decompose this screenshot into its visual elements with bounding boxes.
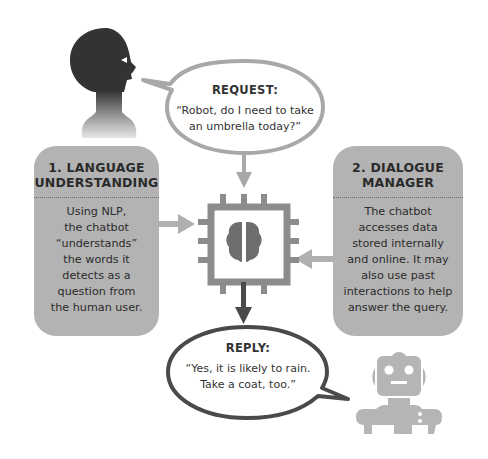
request-text: “Robot, do I need to take an umbrella to… — [170, 103, 320, 135]
language-body-line: Using NLP, — [40, 204, 153, 220]
language-body-line: “understands” — [40, 236, 153, 252]
chip-brain-icon — [198, 194, 299, 294]
language-title-line-2: UNDERSTANDING — [34, 175, 159, 190]
request-bubble: REQUEST: “Robot, do I need to take an um… — [170, 83, 320, 135]
reply-line-2: Take a coat, too.” — [172, 377, 324, 393]
reply-text: “Yes, it is likely to rain. Take a coat,… — [172, 361, 324, 393]
language-box-body: Using NLP, the chatbot “understands” the… — [34, 198, 159, 316]
language-body-line: detects as a — [40, 268, 153, 284]
dialogue-body-line: interactions to help — [335, 284, 461, 300]
dialogue-manager-box: 2. DIALOGUE MANAGER The chatbot accesses… — [333, 146, 463, 336]
arrow-down-to-reply — [235, 282, 252, 324]
language-body-line: question from — [40, 284, 153, 300]
dialogue-body-line: stored internally — [335, 236, 461, 252]
language-body-line: the chatbot — [40, 220, 153, 236]
language-understanding-box: 1. LANGUAGE UNDERSTANDING Using NLP, the… — [34, 146, 159, 336]
human-head-icon — [70, 28, 136, 138]
dialogue-title-line-2: MANAGER — [333, 175, 463, 190]
dialogue-body-line: answer the query. — [335, 300, 461, 316]
arrow-left-to-chip — [295, 249, 334, 269]
robot-icon — [356, 352, 442, 434]
dialogue-body-line: and online. It may — [335, 252, 461, 268]
dialogue-box-title: 2. DIALOGUE MANAGER — [333, 146, 463, 198]
arrow-down-to-chip — [236, 153, 252, 188]
reply-bubble: REPLY: “Yes, it is likely to rain. Take … — [172, 341, 324, 393]
request-line-2: an umbrella today?” — [170, 119, 320, 135]
reply-title: REPLY: — [172, 341, 324, 356]
arrow-right-to-chip — [156, 214, 195, 234]
dialogue-title-line-1: 2. DIALOGUE — [333, 160, 463, 175]
language-box-title: 1. LANGUAGE UNDERSTANDING — [34, 146, 159, 198]
request-line-1: “Robot, do I need to take — [170, 103, 320, 119]
dialogue-body-line: The chatbot — [335, 204, 461, 220]
dialogue-box-body: The chatbot accesses data stored interna… — [333, 198, 463, 316]
request-title: REQUEST: — [170, 83, 320, 98]
dialogue-body-line: also use past — [335, 268, 461, 284]
dialogue-body-line: accesses data — [335, 220, 461, 236]
language-body-line: the words it — [40, 252, 153, 268]
language-title-line-1: 1. LANGUAGE — [34, 160, 159, 175]
reply-line-1: “Yes, it is likely to rain. — [172, 361, 324, 377]
language-body-line: the human user. — [40, 300, 153, 316]
